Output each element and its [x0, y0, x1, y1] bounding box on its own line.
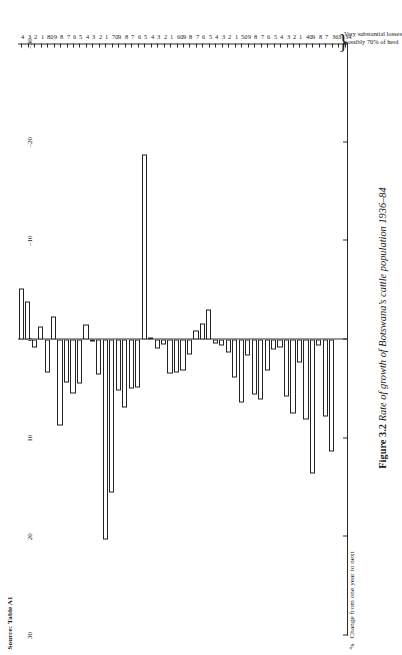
bar: [193, 330, 198, 339]
year-tick: [209, 43, 210, 48]
year-tick-label: 4: [215, 33, 218, 40]
year-tick-label: 4: [280, 33, 283, 40]
year-tick-label: 70: [112, 33, 118, 40]
year-tick: [41, 43, 42, 48]
year-tick: [118, 43, 119, 48]
year-tick-label: 2: [228, 33, 231, 40]
year-tick-label: 5: [144, 33, 147, 40]
year-tick-label: 7: [131, 33, 134, 40]
year-tick-label: 8: [254, 33, 257, 40]
year-tick: [60, 43, 61, 48]
bar: [38, 326, 43, 339]
year-tick-label: 1: [170, 33, 173, 40]
year-tick-label: 4: [151, 33, 154, 40]
year-tick: [28, 43, 29, 48]
year-tick: [144, 43, 145, 48]
year-tick: [177, 43, 178, 48]
bar: [213, 339, 218, 343]
year-tick-label: 5: [274, 33, 277, 40]
year-tick: [312, 43, 313, 48]
year-tick: [86, 43, 87, 48]
year-tick-label: 2: [293, 33, 296, 40]
year-tick-label: 80: [47, 33, 53, 40]
year-tick-label: 40: [306, 33, 312, 40]
year-tick: [73, 43, 74, 48]
year-tick-label: 8: [125, 33, 128, 40]
bar: [200, 323, 205, 339]
year-tick: [125, 43, 126, 48]
year-tick-label: 9: [118, 33, 121, 40]
year-tick: [280, 43, 281, 48]
year-tick: [34, 43, 35, 48]
year-tick: [170, 43, 171, 48]
bar: [167, 339, 172, 373]
curly-brace-icon: }: [339, 31, 349, 52]
figure-caption-text: Rate of growth of Botswana’s cattle popu…: [377, 187, 388, 421]
bar: [284, 339, 289, 396]
value-tick: [343, 141, 348, 142]
year-tick: [67, 43, 68, 48]
value-tick: [343, 338, 348, 339]
bar: [290, 339, 295, 413]
year-tick: [267, 43, 268, 48]
bar: [329, 339, 334, 451]
year-tick-label: 4: [86, 33, 89, 40]
bar: [135, 339, 140, 387]
year-tick-label: 7: [325, 33, 328, 40]
year-tick: [183, 43, 184, 48]
year-tick-label: 2: [34, 33, 37, 40]
value-tick: [343, 634, 348, 635]
year-tick-label: 60: [177, 33, 183, 40]
year-tick-label: 6: [73, 33, 76, 40]
year-tick: [222, 43, 223, 48]
year-tick-label: 6: [202, 33, 205, 40]
bar: [83, 324, 88, 339]
year-tick-label: 7: [67, 33, 70, 40]
year-tick-label: 3: [28, 33, 31, 40]
bar: [219, 339, 224, 345]
value-tick-label: 20: [26, 533, 34, 540]
bar: [265, 339, 270, 370]
year-tick-label: 7: [196, 33, 199, 40]
year-tick: [241, 43, 242, 48]
value-tick-label: 30: [26, 632, 34, 639]
figure-caption: Figure 3.2 Rate of growth of Botswana’s …: [377, 0, 388, 655]
source-note: Source: Table A1: [6, 596, 14, 649]
year-tick: [261, 43, 262, 48]
value-tick: [343, 239, 348, 240]
bar: [226, 339, 231, 352]
year-tick: [254, 43, 255, 48]
year-tick: [21, 43, 22, 48]
year-tick: [138, 43, 139, 48]
bar: [129, 339, 134, 388]
bar: [271, 339, 276, 349]
bar: [258, 339, 263, 399]
year-tick-label: 1: [105, 33, 108, 40]
year-tick-label: 3: [287, 33, 290, 40]
year-tick-label: 4: [21, 33, 24, 40]
bar: [103, 339, 108, 539]
year-tick-label: 5: [209, 33, 212, 40]
bar: [90, 339, 95, 341]
bar: [232, 339, 237, 377]
year-tick: [274, 43, 275, 48]
year-tick-label: 9: [54, 33, 57, 40]
year-tick: [319, 43, 320, 48]
bar: [245, 339, 250, 355]
year-tick: [287, 43, 288, 48]
year-tick: [196, 43, 197, 48]
year-tick-label: 1: [41, 33, 44, 40]
bar: [25, 301, 30, 339]
bar: [180, 339, 185, 370]
bar: [155, 339, 160, 348]
bar: [70, 339, 75, 393]
year-tick: [215, 43, 216, 48]
bar: [19, 288, 24, 339]
percent-symbol: %: [348, 638, 356, 649]
value-tick-label: 0: [26, 337, 34, 341]
bar-chart-plot-area: 3020100–10–20–30 34353678940123456789501…: [18, 43, 348, 635]
year-tick-label: 3: [222, 33, 225, 40]
year-tick-label: 3: [157, 33, 160, 40]
